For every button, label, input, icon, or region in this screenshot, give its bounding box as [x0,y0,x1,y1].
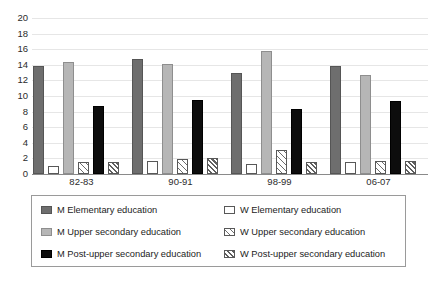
legend-item-w-upper[interactable]: W Upper secondary education [224,224,365,240]
legend-label: W Post-upper secondary education [240,249,385,259]
y-axis-tick-label: 2 [2,153,28,163]
bar-m-post-upper [291,109,302,174]
chart-legend: M Elementary educationM Upper secondary … [31,195,406,267]
y-axis-tick-label: 14 [2,60,28,70]
legend-swatch-m-post-upper [41,250,52,258]
legend-swatch-w-elementary [224,206,235,214]
x-axis-tick-label: 06-07 [329,176,428,188]
y-axis-tick-label: 12 [2,75,28,85]
legend-swatch-w-post-upper [224,250,235,258]
bar-m-upper [162,64,173,174]
legend-grid: M Elementary educationM Upper secondary … [32,196,405,266]
bar-group [131,18,230,174]
legend-item-m-post-upper[interactable]: M Post-upper secondary education [41,246,201,262]
bar-w-upper [375,161,386,174]
legend-label: M Elementary education [57,205,157,215]
bar-m-upper [261,51,272,174]
y-axis-tick-label: 8 [2,107,28,117]
bar-group [230,18,329,174]
bar-m-upper [63,62,74,174]
y-axis-tick-label: 6 [2,122,28,132]
bar-w-upper [276,150,287,174]
legend-label: W Upper secondary education [240,227,365,237]
bar-series-container [32,18,428,174]
legend-swatch-m-elementary [41,206,52,214]
legend-label: M Upper secondary education [57,227,181,237]
bar-m-elementary [132,59,143,174]
bar-m-elementary [330,66,341,174]
bar-m-elementary [33,66,44,174]
bar-w-upper [177,159,188,174]
legend-item-w-elementary[interactable]: W Elementary education [224,202,341,218]
bar-group [329,18,428,174]
x-axis-tick-label: 98-99 [230,176,329,188]
bar-m-post-upper [192,100,203,174]
x-axis: 82-8390-9198-9906-07 [32,176,428,192]
bar-group [32,18,131,174]
y-axis-tick-label: 10 [2,91,28,101]
axis-baseline [32,174,428,175]
y-axis: 20181614121086420 [0,0,28,192]
chart-root: 20181614121086420 82-8390-9198-9906-07 M… [0,0,437,283]
bar-m-upper [360,75,371,174]
bar-w-upper [78,162,89,174]
legend-item-m-upper[interactable]: M Upper secondary education [41,224,181,240]
plot-area [32,18,428,174]
y-axis-tick-label: 20 [2,13,28,23]
legend-item-m-elementary[interactable]: M Elementary education [41,202,157,218]
bar-w-post-upper [207,158,218,174]
x-axis-tick-label: 82-83 [32,176,131,188]
legend-item-w-post-upper[interactable]: W Post-upper secondary education [224,246,385,262]
bar-w-post-upper [405,161,416,174]
y-axis-tick-label: 4 [2,138,28,148]
legend-swatch-m-upper [41,228,52,236]
bar-w-elementary [48,166,59,174]
legend-swatch-w-upper [224,228,235,236]
y-axis-tick-label: 16 [2,44,28,54]
x-axis-tick-label: 90-91 [131,176,230,188]
legend-label: W Elementary education [240,205,341,215]
bar-w-post-upper [108,162,119,174]
bar-w-post-upper [306,162,317,174]
bar-w-elementary [147,161,158,174]
bar-w-elementary [246,164,257,174]
bar-m-post-upper [390,101,401,174]
y-axis-tick-label: 0 [2,169,28,179]
bar-m-elementary [231,73,242,174]
bar-w-elementary [345,162,356,174]
y-axis-tick-label: 18 [2,29,28,39]
legend-label: M Post-upper secondary education [57,249,201,259]
bar-m-post-upper [93,106,104,174]
